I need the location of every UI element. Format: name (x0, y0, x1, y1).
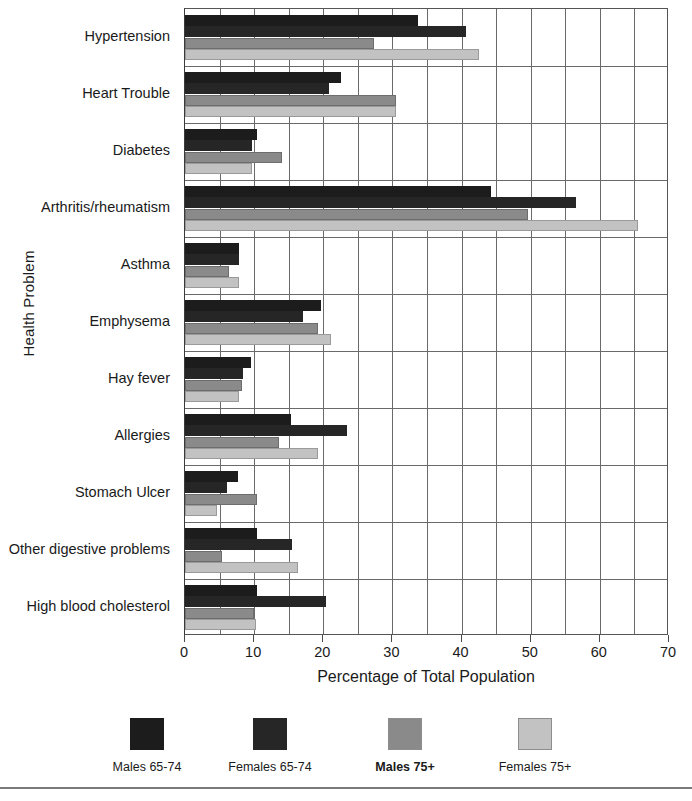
x-axis-tick-label: 40 (452, 644, 468, 660)
bar-3 (185, 220, 638, 231)
bar-1 (185, 482, 227, 493)
bar-2 (185, 209, 528, 220)
category-label: Other digestive problems (9, 542, 170, 557)
x-axis-tick-label: 20 (314, 644, 330, 660)
bar-2 (185, 608, 254, 619)
category-label: Hay fever (108, 371, 170, 386)
category-label: Hypertension (85, 29, 170, 44)
bar-3 (185, 505, 217, 516)
bar-0 (185, 72, 341, 83)
category-label: Asthma (121, 257, 170, 272)
grid-line-vertical (531, 9, 532, 634)
group-separator (185, 66, 667, 67)
legend-label: Males 65-74 (113, 760, 182, 774)
bar-1 (185, 368, 243, 379)
category-label: Diabetes (113, 143, 170, 158)
group-separator (185, 579, 667, 580)
bar-2 (185, 266, 229, 277)
bar-0 (185, 585, 257, 596)
bar-1 (185, 83, 329, 94)
bar-0 (185, 186, 491, 197)
bar-0 (185, 129, 257, 140)
category-label: Stomach Ulcer (75, 485, 170, 500)
legend-swatch (518, 718, 552, 750)
x-axis-tick-label: 70 (660, 644, 676, 660)
category-label: High blood cholesterol (27, 599, 170, 614)
x-axis-tick-label: 50 (522, 644, 538, 660)
bar-0 (185, 528, 257, 539)
bar-1 (185, 596, 326, 607)
group-separator (185, 237, 667, 238)
grid-line-vertical (600, 9, 601, 634)
bar-2 (185, 437, 279, 448)
bar-2 (185, 38, 374, 49)
x-axis-title: Percentage of Total Population (184, 668, 668, 686)
chart-legend: Males 65-74Females 65-74Males 75+Females… (0, 718, 692, 780)
group-separator (185, 408, 667, 409)
category-label: Emphysema (89, 314, 170, 329)
bar-3 (185, 277, 239, 288)
bar-0 (185, 414, 291, 425)
category-label-column: HypertensionHeart TroubleDiabetesArthrit… (0, 8, 178, 635)
bar-1 (185, 425, 347, 436)
category-label: Allergies (114, 428, 170, 443)
x-axis-tick (530, 635, 531, 642)
bar-0 (185, 300, 321, 311)
legend-swatch (388, 718, 422, 750)
category-label: Arthritis/rheumatism (41, 200, 170, 215)
x-axis-tick (461, 635, 462, 642)
x-axis-tick-label: 60 (591, 644, 607, 660)
bar-2 (185, 380, 242, 391)
group-separator (185, 294, 667, 295)
x-axis-tick (184, 635, 185, 642)
legend-swatch (130, 718, 164, 750)
grid-line-vertical (634, 9, 635, 634)
bar-0 (185, 15, 418, 26)
bar-1 (185, 254, 239, 265)
bar-3 (185, 163, 252, 174)
x-axis-tick (668, 635, 669, 642)
x-axis-tick-label: 30 (383, 644, 399, 660)
x-axis-tick (599, 635, 600, 642)
group-separator (185, 123, 667, 124)
bar-1 (185, 26, 466, 37)
bar-0 (185, 357, 251, 368)
bar-3 (185, 562, 298, 573)
x-axis-tick (322, 635, 323, 642)
bar-1 (185, 140, 252, 151)
bar-1 (185, 197, 576, 208)
bar-2 (185, 152, 282, 163)
bar-0 (185, 471, 238, 482)
bar-2 (185, 323, 318, 334)
x-axis-tick-label: 10 (245, 644, 261, 660)
x-axis-tick (391, 635, 392, 642)
grid-line-vertical (496, 9, 497, 634)
bar-3 (185, 106, 396, 117)
plot-area (184, 8, 668, 635)
grid-line-vertical (462, 9, 463, 634)
group-separator (185, 522, 667, 523)
bar-3 (185, 619, 256, 630)
group-separator (185, 465, 667, 466)
bar-1 (185, 311, 303, 322)
bar-chart-figure: Health Problem HypertensionHeart Trouble… (0, 0, 692, 801)
bar-3 (185, 448, 318, 459)
group-separator (185, 351, 667, 352)
grid-line-vertical (565, 9, 566, 634)
legend-label: Females 75+ (499, 760, 572, 774)
x-axis: 010203040506070 (184, 635, 668, 636)
bar-2 (185, 551, 222, 562)
grid-line-vertical (427, 9, 428, 634)
bar-0 (185, 243, 239, 254)
bar-3 (185, 49, 479, 60)
bar-1 (185, 539, 292, 550)
bar-2 (185, 494, 257, 505)
bar-2 (185, 95, 396, 106)
bar-3 (185, 334, 331, 345)
legend-label: Females 65-74 (228, 760, 311, 774)
group-separator (185, 180, 667, 181)
bar-3 (185, 391, 239, 402)
legend-label: Males 75+ (375, 760, 434, 774)
category-label: Heart Trouble (82, 86, 170, 101)
footer-rule (0, 787, 692, 789)
